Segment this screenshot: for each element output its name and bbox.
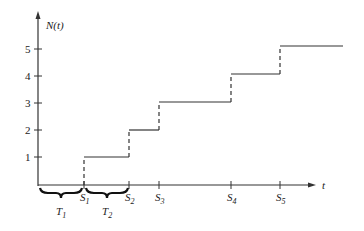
- brace-label-t2: T2: [102, 205, 112, 220]
- brace-t1: [40, 188, 82, 198]
- y-tick-label: 3: [25, 97, 31, 109]
- y-tick-label: 4: [25, 70, 31, 82]
- y-tick-label: 2: [25, 124, 31, 136]
- y-axis-label: N(t): [45, 19, 64, 32]
- x-tick-label-s3: S3: [155, 191, 165, 206]
- y-tick-label: 5: [25, 43, 31, 55]
- y-axis-arrow-icon: [36, 11, 41, 19]
- x-axis-arrow-icon: [308, 183, 316, 188]
- x-tick-label-s4: S4: [227, 191, 237, 206]
- x-tick-label-s1: S1: [80, 191, 90, 206]
- x-axis-label: t: [322, 179, 326, 191]
- step-function: [84, 46, 343, 157]
- counting-process-diagram: 1 2 3 4 5 N(t) t S1 S2 S3 S4 S5 T1 T2: [0, 0, 364, 231]
- x-tick-label-s2: S2: [125, 191, 135, 206]
- x-tick-label-s5: S5: [276, 191, 286, 206]
- step-jumps: [84, 46, 280, 185]
- brace-label-t1: T1: [56, 205, 66, 220]
- brace-t2: [86, 188, 128, 198]
- y-tick-label: 1: [25, 151, 31, 163]
